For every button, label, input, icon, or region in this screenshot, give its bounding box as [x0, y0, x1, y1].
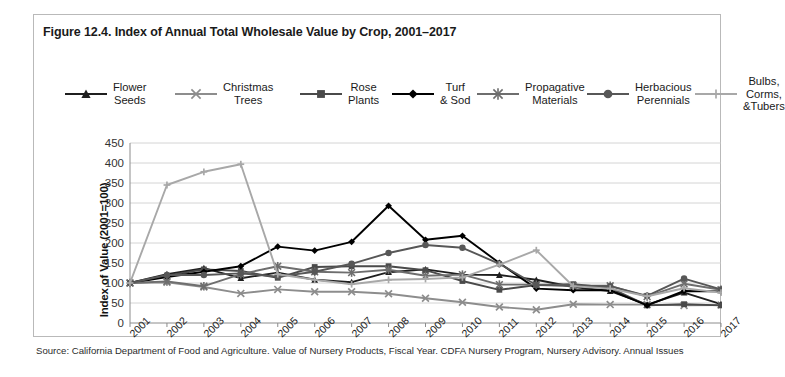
y-axis-label-holder: Index of Value (2001=100): [48, 139, 62, 319]
plus-marker-icon: [200, 168, 207, 175]
chart-canvas: [34, 119, 722, 337]
circle-marker-icon: [348, 261, 354, 267]
circle-marker-icon: [604, 90, 613, 99]
plus-marker-icon: [237, 161, 244, 168]
legend-swatch: [299, 84, 343, 104]
y-tick-label: 200: [90, 237, 124, 249]
legend-swatch: [476, 84, 520, 104]
y-tick-label: 0: [90, 317, 124, 329]
legend-label: Christmas Trees: [218, 81, 273, 106]
figure-title: Figure 12.4. Index of Annual Total Whole…: [43, 25, 456, 39]
legend-swatch: [586, 84, 630, 104]
legend-item-rose-plants[interactable]: Rose Plants: [299, 71, 379, 117]
legend-item-turf-sod[interactable]: Turf & Sod: [391, 71, 470, 117]
legend-swatch: [391, 84, 435, 104]
y-tick-label: 450: [90, 137, 124, 149]
circle-marker-icon: [311, 269, 317, 275]
series-christmas-trees: [127, 279, 722, 313]
y-tick-label: 100: [90, 277, 124, 289]
plot-area: Index of Value (2001=100) 45040035030025…: [34, 119, 722, 337]
y-tick-label: 50: [90, 297, 124, 309]
circle-marker-icon: [201, 272, 207, 278]
y-tick-label: 150: [90, 257, 124, 269]
circle-marker-icon: [533, 282, 539, 288]
circle-marker-icon: [459, 245, 465, 251]
plus-marker-icon: [385, 276, 392, 283]
legend-item-propagative-materials[interactable]: Propagative Materials: [476, 71, 585, 117]
y-tick-label: 250: [90, 217, 124, 229]
circle-marker-icon: [422, 242, 428, 248]
y-tick-label: 300: [90, 197, 124, 209]
legend-swatch: [174, 84, 218, 104]
diamond-marker-icon: [311, 247, 318, 254]
legend-label: Turf & Sod: [435, 81, 470, 106]
y-tick-label: 350: [90, 177, 124, 189]
circle-marker-icon: [164, 272, 170, 278]
y-axis-ticks: 450400350300250200150100500: [84, 119, 124, 337]
diamond-marker-icon: [274, 243, 281, 250]
diamond-marker-icon: [408, 89, 417, 98]
series-bulbs-corms-tubers: [127, 161, 722, 300]
legend-label: Bulbs, Corms, &Tubers: [738, 75, 785, 113]
legend-item-christmas-trees[interactable]: Christmas Trees: [174, 71, 273, 117]
square-marker-icon: [317, 90, 325, 98]
square-marker-icon: [681, 301, 687, 307]
legend-swatch: [64, 84, 108, 104]
legend-item-bulbs-corms-tubers[interactable]: Bulbs, Corms, &Tubers: [694, 71, 785, 117]
legend-label: Propagative Materials: [520, 81, 585, 106]
legend-swatch: [694, 84, 738, 104]
plus-marker-icon: [711, 89, 720, 98]
chart-legend: Flower SeedsChristmas TreesRose PlantsTu…: [46, 71, 714, 117]
circle-marker-icon: [385, 250, 391, 256]
legend-label: Flower Seeds: [108, 81, 147, 106]
legend-item-flower-seeds[interactable]: Flower Seeds: [64, 71, 147, 117]
square-marker-icon: [718, 303, 722, 309]
series-line: [130, 282, 721, 310]
legend-label: Herbacious Perennials: [630, 81, 692, 106]
figure-card: Figure 12.4. Index of Annual Total Whole…: [33, 14, 721, 337]
circle-marker-icon: [238, 270, 244, 276]
y-tick-label: 400: [90, 157, 124, 169]
source-note: Source: California Department of Food an…: [36, 345, 684, 356]
legend-item-herbacious-perennials[interactable]: Herbacious Perennials: [586, 71, 692, 117]
legend-label: Rose Plants: [343, 81, 379, 106]
circle-marker-icon: [681, 275, 687, 281]
